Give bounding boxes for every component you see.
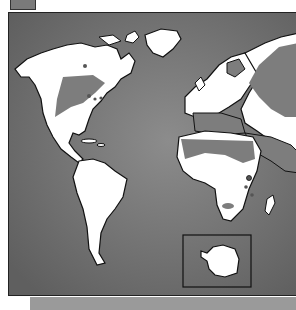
legend-swatch: [10, 0, 36, 10]
bottom-strip: [30, 297, 296, 310]
world-map: [8, 12, 296, 296]
